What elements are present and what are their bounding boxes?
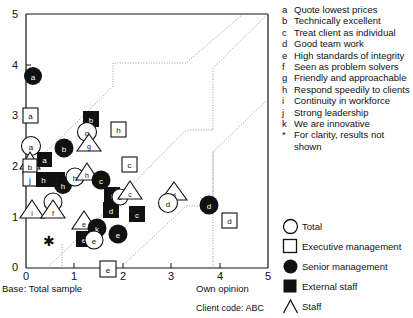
key-item-f: f Seen as problem solvers <box>282 61 413 72</box>
key-item-k: k We are innovative <box>282 118 413 129</box>
svg-text:f: f <box>52 210 54 217</box>
key-code-a: a <box>282 4 294 15</box>
y-tick-3: 3 <box>4 109 18 121</box>
client-code-note: Client code: ABC <box>196 303 264 313</box>
key-text-c: Treat client as individual <box>294 27 396 38</box>
svg-text:a: a <box>29 143 34 152</box>
point-e-executive[interactable]: e <box>100 261 116 277</box>
x-tick-3: 3 <box>164 270 178 282</box>
svg-text:h: h <box>73 174 77 183</box>
key-text-f: Seen as problem solvers <box>294 61 399 72</box>
svg-text:h: h <box>61 182 65 191</box>
square-filled-icon <box>282 278 302 295</box>
key-item-h: h Respond speedily to clients <box>282 84 413 95</box>
point-a-senior[interactable]: a <box>24 67 42 85</box>
svg-text:h: h <box>41 176 45 185</box>
y-tick-2: 2 <box>4 160 18 172</box>
key-code-h: h <box>282 84 294 95</box>
svg-text:d: d <box>109 207 113 216</box>
key-code-b: b <box>282 15 294 26</box>
legend-item-total: Total <box>282 216 413 236</box>
key-code-k: k <box>282 118 294 129</box>
key-text-a: Quote lowest prices <box>294 4 377 15</box>
point-j-executive[interactable]: j <box>23 172 37 186</box>
circle-filled-icon <box>282 258 302 275</box>
legend-label-staff: Staff <box>302 301 321 312</box>
key-item-j: j Strong leadership <box>282 107 413 118</box>
x-tick-2: 2 <box>116 270 130 282</box>
legend-label-senior: Senior management <box>302 261 388 272</box>
key-text-h: Respond speedily to clients <box>294 84 410 95</box>
svg-text:e: e <box>92 237 97 246</box>
key-code-e: e <box>282 50 294 61</box>
square-open-icon <box>282 238 302 255</box>
key-code-g: g <box>282 72 294 83</box>
plot-canvas: a a a a <box>0 0 276 318</box>
x-tick-4: 4 <box>213 270 227 282</box>
svg-text:d: d <box>207 202 211 211</box>
legend-item-senior: Senior management <box>282 256 413 276</box>
point-a-external[interactable]: a <box>37 152 52 167</box>
y-tick-0: 0 <box>4 261 18 273</box>
svg-text:b: b <box>28 163 33 172</box>
key-text-e: High standards of integrity <box>294 50 404 61</box>
svg-text:✱: ✱ <box>43 233 55 249</box>
symbol-legend: Total Executive management Senior manage… <box>282 216 413 316</box>
point-d-senior[interactable]: d <box>200 196 219 215</box>
circle-open-icon <box>282 218 302 235</box>
point-d-executive[interactable]: d <box>222 213 237 228</box>
key-text-g: Friendly and approachable <box>294 72 407 83</box>
key-code-i: i <box>282 95 294 106</box>
legend-item-staff: Staff <box>282 296 413 316</box>
point-a-executive[interactable]: a <box>23 108 38 123</box>
key-code-j: j <box>282 107 294 118</box>
point-b-senior[interactable]: b <box>55 139 74 158</box>
svg-text:h: h <box>85 172 89 179</box>
key-code-f: f <box>282 61 294 72</box>
svg-text:c: c <box>135 211 139 220</box>
svg-text:a: a <box>28 112 33 121</box>
point-b-executive[interactable]: b <box>23 159 37 173</box>
chart-page: a a a a <box>0 0 413 318</box>
key-text-star: For clarity, results not shown <box>294 129 413 152</box>
svg-text:a: a <box>31 73 36 82</box>
svg-text:e: e <box>82 221 86 228</box>
legend-label-external: External staff <box>302 281 357 292</box>
key-item-c: c Treat client as individual <box>282 27 413 38</box>
svg-text:h: h <box>116 126 120 135</box>
point-i-staff[interactable]: i <box>20 200 44 218</box>
y-tick-5: 5 <box>4 8 18 20</box>
star-marker: ✱ <box>43 233 55 249</box>
svg-text:e: e <box>116 231 121 240</box>
key-item-g: g Friendly and approachable <box>282 72 413 83</box>
x-tick-0: 0 <box>19 270 33 282</box>
key-text-d: Good team work <box>294 38 364 49</box>
svg-text:a: a <box>42 156 47 165</box>
data-points: a a a a <box>20 67 237 277</box>
svg-text:c: c <box>99 177 103 186</box>
x-tick-5: 5 <box>261 270 275 282</box>
x-axis-title: Own opinion <box>196 283 249 294</box>
key-item-i: i Continuity in workforce <box>282 95 413 106</box>
point-h-external[interactable]: h <box>36 172 51 187</box>
key-item-b: b Technically excellent <box>282 15 413 26</box>
key-text-i: Continuity in workforce <box>294 95 390 106</box>
svg-text:g: g <box>87 143 91 151</box>
point-e-senior[interactable]: e <box>109 225 128 244</box>
point-c-executive[interactable]: c <box>122 157 137 172</box>
point-c-external[interactable]: c <box>129 206 145 222</box>
point-e-total[interactable]: e <box>85 231 103 249</box>
y-tick-1: 1 <box>4 211 18 223</box>
svg-text:c: c <box>128 161 132 170</box>
svg-text:j: j <box>28 176 31 185</box>
key-item-e: e High standards of integrity <box>282 50 413 61</box>
point-h-executive[interactable]: h <box>111 122 126 137</box>
key-item-star: * For clarity, results not shown <box>282 129 413 152</box>
svg-text:e: e <box>106 266 111 275</box>
attribute-key-list: a Quote lowest prices b Technically exce… <box>282 4 413 152</box>
svg-text:d: d <box>166 200 170 209</box>
legend-item-executive: Executive management <box>282 236 413 256</box>
legend-item-external: External staff <box>282 276 413 296</box>
point-c-senior[interactable]: c <box>92 171 111 190</box>
point-d-total[interactable]: d <box>159 194 178 213</box>
